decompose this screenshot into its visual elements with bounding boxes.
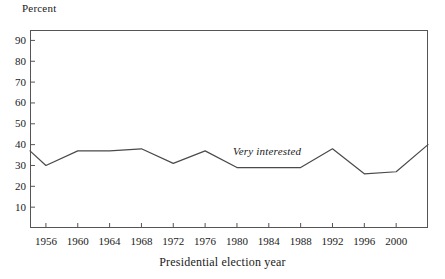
x-tick-label-2000: 2000 [376, 236, 416, 247]
y-tick-label-20: 20 [4, 181, 26, 192]
y-tick-label-30: 30 [4, 160, 26, 171]
y-tick-label-60: 60 [4, 97, 26, 108]
y-tick-label-90: 90 [4, 35, 26, 46]
line-chart: Percent 102030405060708090 1956196019641… [0, 0, 445, 279]
y-tick-label-70: 70 [4, 77, 26, 88]
y-tick-label-40: 40 [4, 139, 26, 150]
y-tick-label-80: 80 [4, 56, 26, 67]
series-annotation-very-interested: Very interested [233, 145, 301, 157]
plot-area [30, 30, 428, 228]
y-tick-label-10: 10 [4, 202, 26, 213]
y-axis-title: Percent [22, 2, 56, 14]
x-axis-title: Presidential election year [0, 255, 445, 270]
y-tick-label-50: 50 [4, 118, 26, 129]
